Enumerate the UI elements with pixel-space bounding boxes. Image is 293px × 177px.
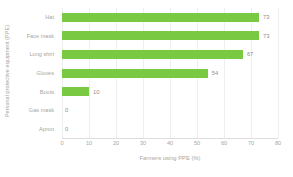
bar-row: 0 [62,101,278,120]
y-axis-tick-label: Face mask [14,27,58,46]
y-axis-title: Personal protective equipment (PPE) [0,0,14,142]
x-axis-tick-label: 10 [86,140,92,146]
bar-series: 737367541000 [62,8,278,138]
y-axis-title-text: Personal protective equipment (PPE) [4,25,10,117]
x-axis-title: Farmers using PPE (%) [62,155,278,161]
bar [62,31,259,40]
x-axis-tick-label: 50 [194,140,200,146]
y-axis-tick-label: Apron [14,119,58,138]
bar [62,87,89,96]
gridline [278,8,279,138]
bar-value-label: 10 [93,89,99,95]
bar [62,13,259,22]
bar-row: 54 [62,64,278,83]
bar-value-label: 0 [65,126,68,132]
x-axis-tick-label: 70 [248,140,254,146]
bar-value-label: 73 [263,33,269,39]
y-axis-tick-label: Long shirt [14,45,58,64]
y-axis-tick-label: Boots [14,82,58,101]
bar-value-label: 54 [212,70,218,76]
bar-row: 67 [62,45,278,64]
bar-row: 0 [62,119,278,138]
y-axis-tick-labels: HatFace maskLong shirtGlovesBootsGas mas… [14,8,58,138]
bar-row: 73 [62,8,278,27]
x-axis-line [62,138,278,139]
y-axis-tick-label: Gloves [14,64,58,83]
x-axis-tick-label: 30 [140,140,146,146]
bar-row: 73 [62,27,278,46]
x-axis-tick-labels: 01020304050607080 [62,140,278,150]
bar [62,69,208,78]
bar-value-label: 0 [65,107,68,113]
x-axis-tick-label: 40 [167,140,173,146]
bar-value-label: 67 [247,51,253,57]
plot-area: 737367541000 [62,8,278,138]
bar [62,50,243,59]
x-axis-tick-label: 0 [60,140,63,146]
x-axis-tick-label: 60 [221,140,227,146]
y-axis-tick-label: Gas mask [14,101,58,120]
x-axis-tick-label: 80 [275,140,281,146]
bar-row: 10 [62,82,278,101]
x-axis-tick-label: 20 [113,140,119,146]
bar-chart: Personal protective equipment (PPE) HatF… [0,0,293,177]
bar-value-label: 73 [263,14,269,20]
y-axis-tick-label: Hat [14,8,58,27]
